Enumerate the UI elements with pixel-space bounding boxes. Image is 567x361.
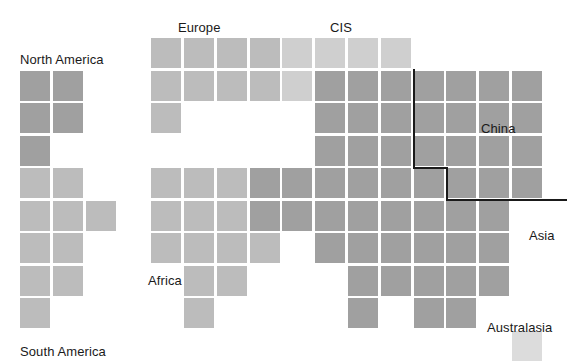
region-label-africa: Africa [148, 274, 182, 287]
region-labels: North AmericaEuropeCISChinaAsiaAfricaSou… [0, 0, 567, 361]
region-label-north-america: North America [20, 53, 104, 66]
region-label-south-america: South America [20, 345, 106, 358]
region-label-europe: Europe [178, 21, 221, 34]
region-label-cis: CIS [330, 21, 352, 34]
region-label-asia: Asia [529, 229, 555, 242]
region-label-australasia: Australasia [487, 321, 552, 334]
region-label-china: China [481, 122, 515, 135]
world-cartogram-figure: North AmericaEuropeCISChinaAsiaAfricaSou… [0, 0, 567, 361]
